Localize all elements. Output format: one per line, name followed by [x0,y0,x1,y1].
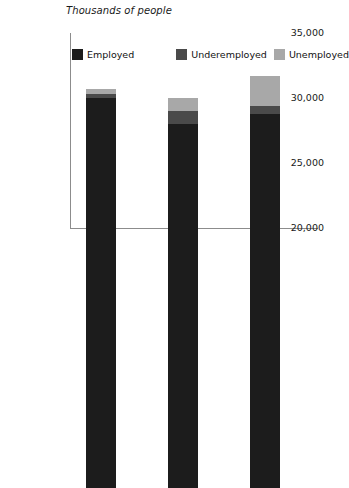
legend-swatch-unemployed [274,49,285,60]
bar-segment-employed-1998[interactable] [168,124,198,488]
bar-segment-employed-1997[interactable] [86,98,116,488]
chart-legend: Employed Underemployed Unemployed [72,49,349,60]
bar-1997[interactable] [86,89,116,228]
bar-segment-unemployed-1998[interactable] [168,98,198,111]
bar-1998[interactable] [168,98,198,228]
legend-swatch-employed [72,49,83,60]
bar-1999[interactable] [250,76,280,228]
legend-label-unemployed: Unemployed [289,50,349,60]
y-axis-line [70,33,71,229]
legend-label-underemployed: Underemployed [191,50,267,60]
legend-item-unemployed[interactable]: Unemployed [274,49,349,60]
legend-swatch-underemployed [176,49,187,60]
y-axis-title: Thousands of people [66,5,172,16]
bar-segment-employed-1999[interactable] [250,114,280,488]
legend-label-employed: Employed [87,50,134,60]
legend-item-underemployed[interactable]: Underemployed [176,49,267,60]
bar-segment-unemployed-1999[interactable] [250,76,280,106]
y-axis-tick-label: 35,000 [260,27,324,38]
bar-segment-underemployed-1999[interactable] [250,106,280,114]
legend-item-employed[interactable]: Employed [72,49,134,60]
legend-spacer [134,54,176,55]
legend-spacer [267,54,274,55]
bar-segment-underemployed-1998[interactable] [168,111,198,124]
